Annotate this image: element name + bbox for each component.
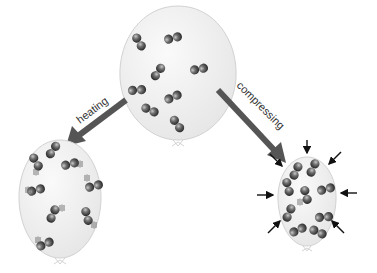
gas-diagram: heating compressing <box>0 0 377 273</box>
compressing-label: compressing <box>235 79 288 132</box>
heating-label: heating <box>74 94 110 125</box>
balloon-heated <box>19 140 105 264</box>
balloon-knot-icon <box>302 246 312 251</box>
balloon-knot-icon <box>172 140 184 146</box>
balloon-knot-icon <box>54 258 66 264</box>
balloon-compressed <box>277 157 336 251</box>
balloon-original <box>120 6 236 146</box>
